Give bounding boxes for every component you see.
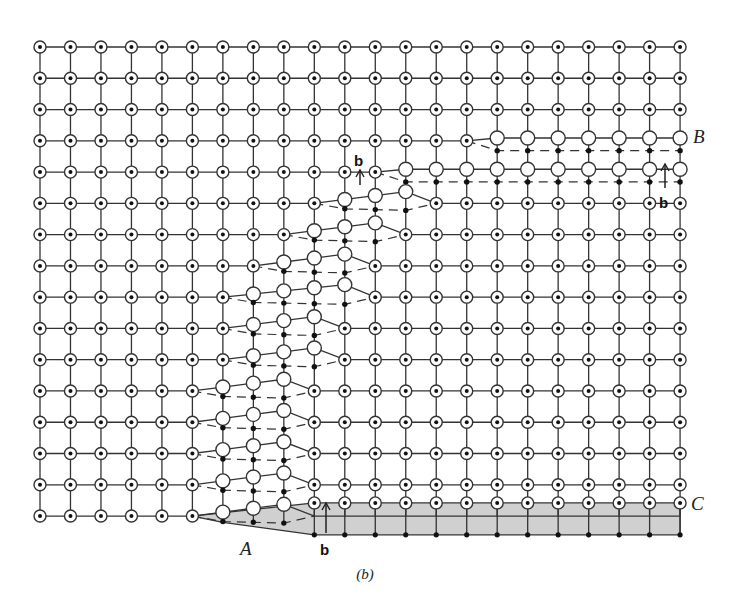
point-label-a: A	[238, 538, 252, 559]
point-label-c: C	[691, 493, 704, 514]
burgers-vector-label-right: b	[659, 194, 668, 211]
burgers-vector-label-top: b	[354, 152, 363, 169]
point-label-b: B	[693, 126, 705, 147]
figure-caption: (b)	[0, 566, 730, 583]
dislocation-lattice-diagram: A B C b b b	[0, 0, 730, 609]
burgers-vector-label-bottom: b	[320, 541, 329, 558]
